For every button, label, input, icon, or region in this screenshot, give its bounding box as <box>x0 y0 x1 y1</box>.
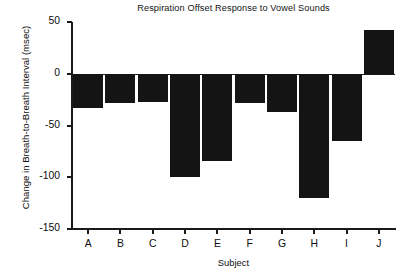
y-tick: -100 <box>67 176 72 178</box>
bar-b <box>105 74 135 103</box>
x-tick <box>152 229 154 234</box>
x-tick <box>313 229 315 234</box>
y-axis-label: Change in Breath-to-Breath Interval (mse… <box>20 10 31 225</box>
bar-g <box>267 74 297 112</box>
y-tick-label: -150 <box>39 222 60 233</box>
x-tick <box>119 229 121 234</box>
x-tick <box>281 229 283 234</box>
x-tick <box>346 229 348 234</box>
x-tick-label-c: C <box>149 238 157 249</box>
bar-c <box>138 74 168 102</box>
x-tick-label-f: F <box>246 238 252 249</box>
x-tick-label-i: I <box>345 238 348 249</box>
bar-d <box>170 74 200 178</box>
x-tick-label-a: A <box>85 238 92 249</box>
y-tick-label: -50 <box>45 119 60 130</box>
x-tick-label-b: B <box>117 238 124 249</box>
x-tick <box>184 229 186 234</box>
x-tick-label-j: J <box>376 238 381 249</box>
x-tick-label-h: H <box>310 238 318 249</box>
bar-a <box>73 74 103 108</box>
x-tick-label-e: E <box>214 238 221 249</box>
bar-f <box>235 74 265 103</box>
x-axis-label: Subject <box>72 257 395 268</box>
x-tick <box>87 229 89 234</box>
bar-h <box>299 74 329 198</box>
y-tick: 0 <box>67 73 72 75</box>
y-tick: -150 <box>67 228 72 230</box>
x-tick <box>249 229 251 234</box>
plot-area: 500-50-100-150 ABCDEFGHIJ <box>72 22 395 229</box>
x-tick-label-g: G <box>278 238 286 249</box>
x-tick <box>378 229 380 234</box>
bar-j <box>364 30 394 73</box>
y-tick: 50 <box>67 21 72 23</box>
x-tick <box>216 229 218 234</box>
bar-e <box>202 74 232 161</box>
y-tick-label: 0 <box>54 67 60 78</box>
chart-title: Respiration Offset Response to Vowel Sou… <box>72 3 395 13</box>
y-tick-label: -100 <box>39 170 60 181</box>
y-tick-label: 50 <box>48 15 60 26</box>
x-tick-label-d: D <box>181 238 189 249</box>
bar-i <box>332 74 362 141</box>
y-tick: -50 <box>67 125 72 127</box>
chart-figure: Respiration Offset Response to Vowel Sou… <box>0 0 404 276</box>
